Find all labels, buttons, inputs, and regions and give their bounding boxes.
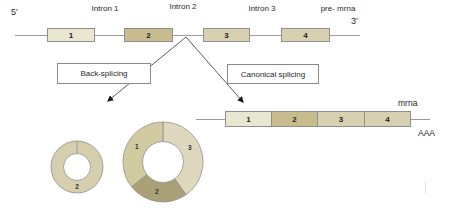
- back-splicing-label: Back-splicing: [80, 69, 127, 78]
- exon-number: 4: [303, 31, 307, 40]
- exon-number: 3: [224, 31, 228, 40]
- donut-segment-label: 2: [75, 183, 79, 190]
- circrna-donuts: 2321: [51, 122, 203, 202]
- three-prime-label: 3′: [351, 16, 358, 26]
- pre-mrna-exon-3: 3: [203, 28, 250, 42]
- mrna-exon-3: 3: [317, 111, 365, 127]
- donut-ring: [64, 154, 91, 181]
- donut-segment-label: 1: [135, 143, 139, 150]
- intron-3-label: Intron 3: [237, 4, 287, 13]
- mrna-exon-2: 2: [271, 111, 318, 127]
- exon-number: 4: [385, 115, 389, 124]
- mrna-exon-1: 1: [225, 111, 272, 127]
- circrna-large: 321: [123, 122, 203, 202]
- splicing-diagram: 2321 5′ Intron 1 Intron 2 Intron 3 pre- …: [0, 0, 450, 208]
- five-prime-label: 5′: [11, 7, 18, 17]
- pre-mrna-exon-2: 2: [124, 28, 173, 42]
- exon-number: 2: [292, 115, 296, 124]
- canonical-splicing-box: Canonical splicing: [227, 64, 319, 84]
- canonical-splicing-label: Canonical splicing: [241, 70, 305, 79]
- donut-segment: [123, 122, 163, 187]
- back-splicing-box: Back-splicing: [57, 63, 151, 84]
- mrna-label: mrna: [398, 98, 417, 108]
- pre-mrna-exon-4: 4: [281, 28, 330, 42]
- poly-a-label: AAA: [418, 128, 435, 138]
- exon-number: 3: [339, 115, 343, 124]
- pre-mrna-exon-1: 1: [47, 28, 95, 42]
- mrna-exon-4: 4: [364, 111, 411, 127]
- donut-segment-label: 3: [188, 144, 192, 151]
- donut-segment-label: 2: [155, 188, 159, 195]
- circrna-small: 2: [51, 141, 103, 193]
- exon-number: 1: [69, 31, 73, 40]
- pre-mrna-label: pre- mrna: [308, 4, 368, 13]
- intron-1-label: Intron 1: [80, 4, 130, 13]
- intron-2-label: Intron 2: [158, 2, 208, 11]
- exon-number: 1: [246, 115, 250, 124]
- exon-number: 2: [146, 31, 150, 40]
